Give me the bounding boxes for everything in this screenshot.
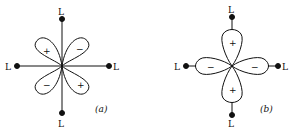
- sign-lower-right-a: +: [77, 80, 85, 90]
- lobe-lower-right: [62, 66, 89, 94]
- ligand-dot-bottom-b: [230, 113, 235, 118]
- ligand-label-left-b: L: [174, 62, 180, 72]
- orbital-diagrams: L L L L + − − + (a) L L L L + + − − (b): [0, 0, 291, 131]
- ligand-label-bottom-b: L: [228, 119, 234, 129]
- ligand-label-top-b: L: [228, 5, 234, 15]
- ligand-dot-top-b: [230, 15, 235, 20]
- sign-top-b: +: [229, 38, 237, 48]
- ligand-dot-right-b: [276, 64, 281, 69]
- ligand-label-top-a: L: [58, 7, 64, 17]
- sign-bottom-b: +: [229, 85, 237, 95]
- ligand-label-right-b: L: [282, 62, 288, 72]
- caption-a: (a): [95, 104, 108, 114]
- ligand-dot-bottom-a: [60, 111, 65, 116]
- ligand-dot-left-a: [15, 64, 20, 69]
- ligand-dot-right-a: [107, 64, 112, 69]
- sign-left-b: −: [207, 62, 215, 72]
- caption-b: (b): [260, 104, 273, 114]
- diagram-a: [15, 17, 112, 116]
- ligand-dot-left-b: [184, 64, 189, 69]
- sign-right-b: −: [251, 62, 259, 72]
- ligand-label-right-a: L: [113, 62, 119, 72]
- sign-upper-right-a: −: [76, 44, 84, 54]
- ligand-label-bottom-a: L: [58, 119, 64, 129]
- ligand-dot-top-a: [60, 17, 65, 22]
- sign-lower-left-a: −: [43, 80, 51, 90]
- sign-upper-left-a: +: [43, 46, 51, 56]
- ligand-label-left-a: L: [5, 62, 11, 72]
- diagram-b: [184, 15, 281, 118]
